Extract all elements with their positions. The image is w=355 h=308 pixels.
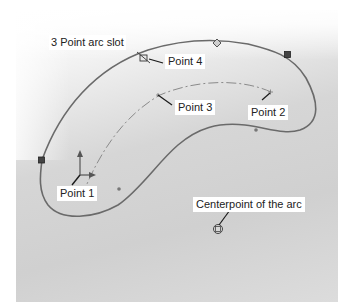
leader-point2 <box>262 93 270 100</box>
square-handle-icon[interactable] <box>39 157 45 163</box>
label-point2: Point 2 <box>248 105 288 120</box>
label-point3: Point 3 <box>175 100 215 115</box>
leader-centerpoint <box>219 210 230 225</box>
leader-point4 <box>149 59 163 63</box>
label-point4: Point 4 <box>165 54 205 69</box>
point4-handle-icon[interactable] <box>137 52 150 63</box>
label-point1: Point 1 <box>57 186 97 201</box>
point-marker-icon <box>117 187 121 191</box>
circle-center-icon[interactable] <box>214 225 223 234</box>
leader-point3 <box>158 95 172 105</box>
diagram-title: 3 Point arc slot <box>49 35 126 50</box>
square-handle-icon[interactable] <box>285 52 291 58</box>
coordinate-axes-icon <box>77 150 96 178</box>
point-marker-icon <box>254 128 258 132</box>
label-centerpoint: Centerpoint of the arc <box>193 197 305 212</box>
leader-point1 <box>72 175 80 185</box>
